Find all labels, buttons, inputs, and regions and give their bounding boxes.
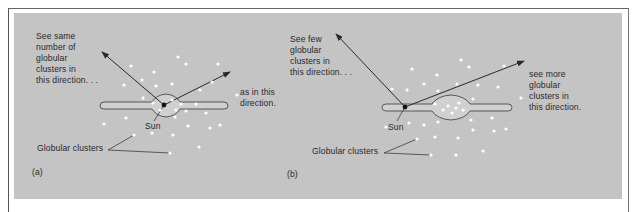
panel-b-sun-label: Sun <box>388 122 404 133</box>
panel-a-clusters-label: Globular clusters <box>37 143 103 154</box>
panel-a-letter: (a) <box>32 167 43 178</box>
panel-b-letter: (b) <box>287 169 298 180</box>
panel-b-upper-left-caption: See few globular clusters in this direct… <box>290 34 352 78</box>
clusters-pointer-b2 <box>384 153 431 155</box>
panel-b-clusters-label: Globular clusters <box>312 146 378 157</box>
galactic-disk-b <box>382 95 512 120</box>
panel-b-right-caption: see more globular clusters in this direc… <box>529 69 581 113</box>
panel-a-sun-label: Sun <box>145 121 161 132</box>
galaxy-a <box>100 52 239 155</box>
clusters-pointer-a2 <box>108 150 170 153</box>
arrow-upper-right-a <box>164 72 230 105</box>
sun-marker-a <box>162 103 167 108</box>
galaxy-b <box>336 34 524 157</box>
arrow-upper-left-a <box>102 52 164 105</box>
sun-marker-b <box>403 105 408 110</box>
clusters-pointer-b1 <box>384 139 417 153</box>
panel-a-right-caption: as in this direction. <box>240 87 276 109</box>
clusters-pointer-a1 <box>108 135 134 150</box>
panel-a-upper-left-caption: See same number of globular clusters in … <box>36 31 98 86</box>
